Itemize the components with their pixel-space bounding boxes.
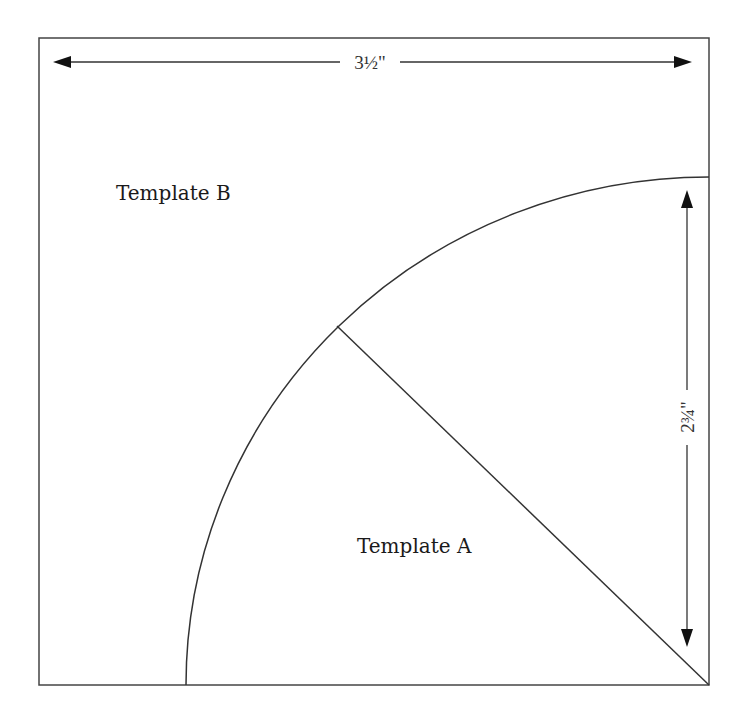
template-a-label: Template A bbox=[357, 534, 472, 558]
width-label: 3½" bbox=[354, 52, 386, 73]
arrow-up-icon bbox=[681, 190, 693, 208]
width-dimension: 3½" bbox=[53, 52, 692, 73]
height-dimension: 2¾" bbox=[677, 190, 698, 647]
diagonal-line bbox=[337, 326, 709, 685]
arrow-down-icon bbox=[681, 629, 693, 647]
template-b-label: Template B bbox=[116, 181, 231, 205]
arrow-right-icon bbox=[674, 56, 692, 68]
template-diagram: 3½" 2¾" Template B Template A bbox=[0, 0, 752, 718]
arrow-left-icon bbox=[53, 56, 71, 68]
height-label: 2¾" bbox=[677, 401, 698, 433]
